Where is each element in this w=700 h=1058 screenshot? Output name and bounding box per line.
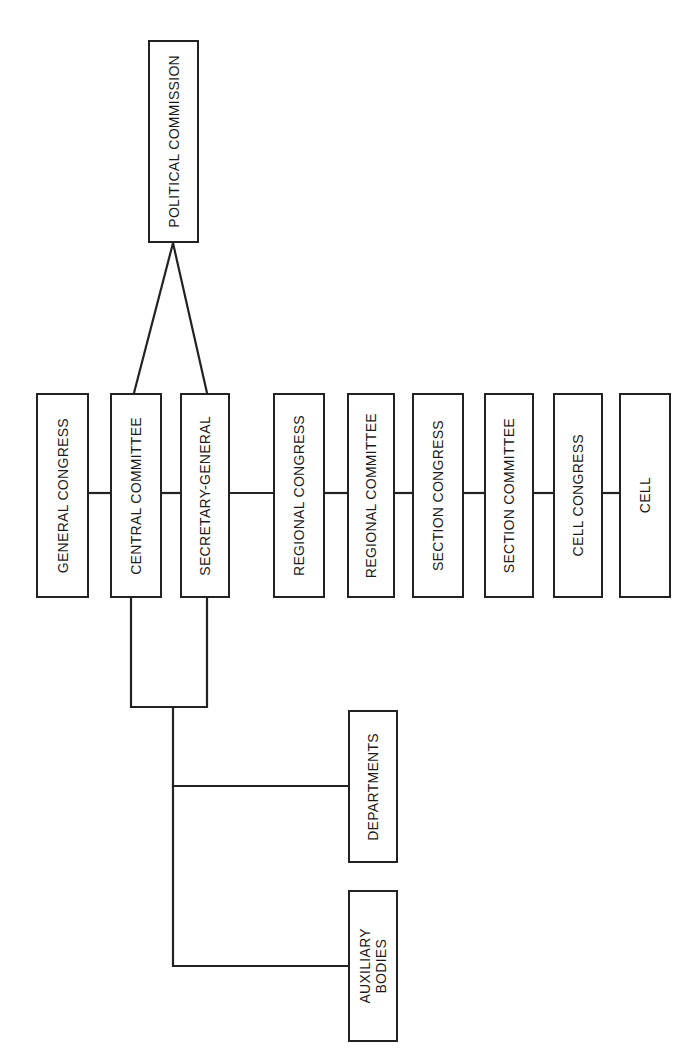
node-section-congress: SECTION CONGRESS [412, 393, 464, 598]
label-regional-congress: REGIONAL CONGRESS [291, 415, 307, 576]
node-central-committee: CENTRAL COMMITTEE [110, 393, 162, 598]
node-cell-congress: CELL CONGRESS [553, 393, 603, 598]
label-general-congress: GENERAL CONGRESS [55, 418, 71, 573]
label-section-committee: SECTION COMMITTEE [501, 418, 517, 573]
label-secretary-general: SECRETARY-GENERAL [197, 416, 213, 576]
node-political-commission: POLITICAL COMMISSION [148, 40, 199, 243]
node-regional-committee: REGIONAL COMMITTEE [347, 393, 395, 598]
node-regional-congress: REGIONAL CONGRESS [273, 393, 325, 598]
edge-bracket [131, 597, 207, 707]
label-auxiliary-bodies: AUXILIARY BODIES [357, 928, 389, 1004]
node-section-committee: SECTION COMMITTEE [484, 393, 534, 598]
edge-pc-sg [173, 243, 207, 393]
node-general-congress: GENERAL CONGRESS [36, 393, 89, 598]
label-central-committee: CENTRAL COMMITTEE [128, 417, 144, 575]
label-political-commission: POLITICAL COMMISSION [166, 55, 182, 228]
node-departments: DEPARTMENTS [348, 710, 398, 863]
label-cell: CELL [637, 477, 653, 513]
label-departments: DEPARTMENTS [365, 733, 381, 841]
label-section-congress: SECTION CONGRESS [430, 420, 446, 571]
node-secretary-general: SECRETARY-GENERAL [180, 393, 230, 598]
edge-pc-cc [134, 243, 173, 393]
node-auxiliary-bodies: AUXILIARY BODIES [348, 890, 398, 1042]
node-cell: CELL [619, 393, 671, 598]
label-regional-committee: REGIONAL COMMITTEE [363, 413, 379, 578]
label-cell-congress: CELL CONGRESS [570, 434, 586, 556]
edge-stem [173, 707, 348, 966]
